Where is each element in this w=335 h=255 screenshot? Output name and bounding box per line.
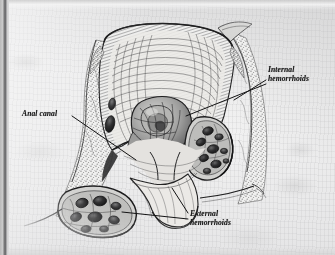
internal-hemorrhoids-label-line2: hemorrhoids [268, 75, 309, 84]
external-hemorrhoids-label: External hemorrhoids [190, 210, 231, 228]
scan-edge-bottom [0, 247, 335, 255]
anal-canal-label-line1: Anal canal [22, 110, 57, 119]
anatomy-artwork [0, 0, 335, 255]
external-hemorrhoids-label-line2: hemorrhoids [190, 219, 231, 228]
scan-edge-left [0, 0, 9, 255]
illustration-page: Internal hemorrhoids Anal canal External… [0, 0, 335, 255]
scan-edge-top [0, 0, 335, 10]
anal-canal-label: Anal canal [22, 110, 57, 119]
internal-hemorrhoids-label: Internal hemorrhoids [268, 66, 309, 84]
external-hemorrhoid-cluster [24, 186, 136, 238]
